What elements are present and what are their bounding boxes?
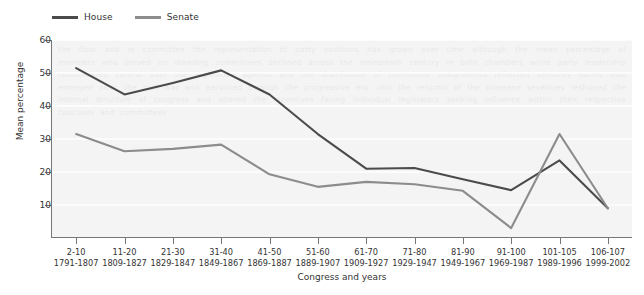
x-tick-mark [463, 238, 464, 244]
x-tick-mark [76, 238, 77, 244]
x-axis-title: Congress and years [52, 272, 632, 282]
y-tick-label: 50 [11, 68, 51, 78]
y-axis-line [51, 40, 52, 238]
series-line-house [76, 68, 608, 208]
series-line-senate [76, 134, 608, 228]
y-tick-label: 30 [11, 134, 51, 144]
x-tick-mark [511, 238, 512, 244]
legend-entry-senate: Senate [135, 12, 199, 22]
chart-figure: House Senate Mean percentage the floor a… [0, 0, 644, 295]
x-tick-label-congress: 31-40 [209, 247, 233, 257]
y-tick-label: 20 [11, 167, 51, 177]
x-tick-label-congress: 106-107 [591, 247, 625, 257]
legend-entry-house: House [52, 12, 113, 22]
x-tick-mark [173, 238, 174, 244]
x-tick-mark [560, 238, 561, 244]
x-tick-label-congress: 41-50 [258, 247, 282, 257]
legend-swatch-house [52, 16, 78, 19]
legend-label-senate: Senate [167, 12, 199, 22]
x-tick-mark [608, 238, 609, 244]
x-tick-label-congress: 51-60 [306, 247, 330, 257]
x-tick-mark [270, 238, 271, 244]
y-tick-label: 60 [11, 35, 51, 45]
x-tick-label-congress: 71-80 [403, 247, 427, 257]
y-tick-label: 10 [11, 200, 51, 210]
x-tick-mark [125, 238, 126, 244]
chart-legend: House Senate [52, 9, 199, 25]
x-axis-line [51, 237, 632, 238]
x-tick-label: 106-1071999-2002 [569, 247, 644, 269]
x-tick-label-congress: 61-70 [354, 247, 378, 257]
y-tick-label: 40 [11, 101, 51, 111]
plot-svg [52, 40, 632, 238]
x-tick-mark [415, 238, 416, 244]
x-tick-mark [221, 238, 222, 244]
x-tick-mark [366, 238, 367, 244]
x-tick-label-congress: 81-90 [451, 247, 475, 257]
x-tick-label-years: 1999-2002 [569, 258, 644, 269]
x-tick-label-congress: 11-20 [113, 247, 137, 257]
legend-swatch-senate [135, 16, 161, 19]
x-tick-label-congress: 2-10 [67, 247, 86, 257]
x-tick-label-congress: 21-30 [161, 247, 185, 257]
x-tick-mark [318, 238, 319, 244]
legend-label-house: House [84, 12, 113, 22]
plot-area: the floor and in committee the represent… [52, 40, 632, 238]
